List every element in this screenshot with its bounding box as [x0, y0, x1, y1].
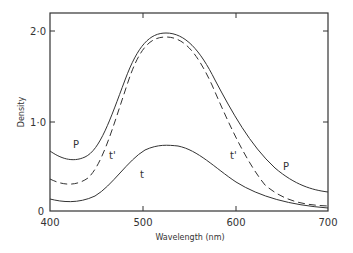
y-tick-1: 1·0 [30, 117, 46, 128]
x-axis-title: Wavelength (nm) [155, 233, 224, 242]
density-chart: 400 500 600 700 0 1·0 2·0 Wavelength (nm… [0, 0, 353, 253]
curve-label-p-right: P [283, 161, 289, 172]
curve-label-tprime-right: t' [230, 150, 237, 161]
curve-label-p-left: P [73, 139, 79, 150]
curve-label-tprime-left: t' [109, 150, 116, 161]
y-tick-2: 2·0 [30, 26, 46, 37]
y-axis-title: Density [17, 97, 26, 128]
y-tick-0: 0 [38, 206, 44, 217]
x-tick-700: 700 [318, 217, 337, 228]
x-tick-400: 400 [40, 217, 59, 228]
curve-label-t: t [140, 169, 144, 180]
curve-t-prime [50, 37, 328, 206]
y-ticks [50, 31, 328, 122]
x-tick-500: 500 [133, 217, 152, 228]
x-tick-600: 600 [226, 217, 245, 228]
